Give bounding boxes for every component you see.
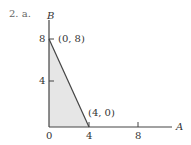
y-tick-label-4: 4 bbox=[39, 76, 45, 86]
y-axis-label: B bbox=[47, 11, 54, 21]
x-tick-label-0: 0 bbox=[46, 131, 52, 141]
annotation-0-8: (0, 8) bbox=[58, 34, 85, 44]
x-tick-label-4: 4 bbox=[86, 131, 92, 141]
x-tick-label-8: 8 bbox=[135, 131, 141, 141]
x-axis-label: A bbox=[176, 122, 183, 132]
annotation-4-0: (4, 0) bbox=[88, 108, 115, 118]
y-tick-label-8: 8 bbox=[39, 34, 45, 44]
chart-plot bbox=[0, 0, 191, 145]
